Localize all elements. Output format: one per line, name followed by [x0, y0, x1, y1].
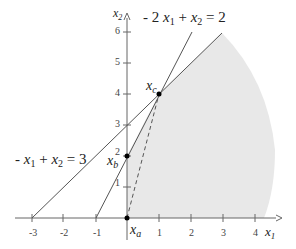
svg-text:4: 4	[115, 87, 120, 98]
svg-text:5: 5	[115, 56, 120, 67]
x-axis-arrow-icon	[276, 215, 282, 221]
point-xa	[125, 216, 130, 221]
svg-text:4: 4	[253, 227, 258, 238]
svg-text:3: 3	[115, 118, 120, 129]
svg-text:-3: -3	[29, 227, 37, 238]
svg-text:3: 3	[221, 227, 226, 238]
x-tick-labels: -3 -2 -1 1 2 3 4	[29, 227, 258, 238]
svg-text:6: 6	[115, 25, 120, 36]
point-xc	[157, 92, 162, 97]
svg-text:1: 1	[157, 227, 162, 238]
x-axis-label: x1	[264, 224, 275, 241]
equation-c1: - x1 + x2 = 3	[15, 151, 87, 169]
point-xb	[125, 154, 130, 159]
y-axis-label: x2	[112, 6, 122, 22]
lp-diagram: -3 -2 -1 1 2 3 4 1 2 3 4 5 6 x1 x2 xa xb…	[0, 0, 296, 249]
equation-c2: - 2 x1 + x2 = 2	[143, 9, 226, 27]
svg-text:2: 2	[115, 146, 120, 157]
svg-text:2: 2	[189, 227, 194, 238]
label-xc: xc	[145, 78, 157, 95]
feasible-region	[127, 33, 275, 218]
svg-text:-2: -2	[60, 227, 68, 238]
label-xa: xa	[129, 222, 141, 239]
svg-text:-1: -1	[93, 227, 101, 238]
